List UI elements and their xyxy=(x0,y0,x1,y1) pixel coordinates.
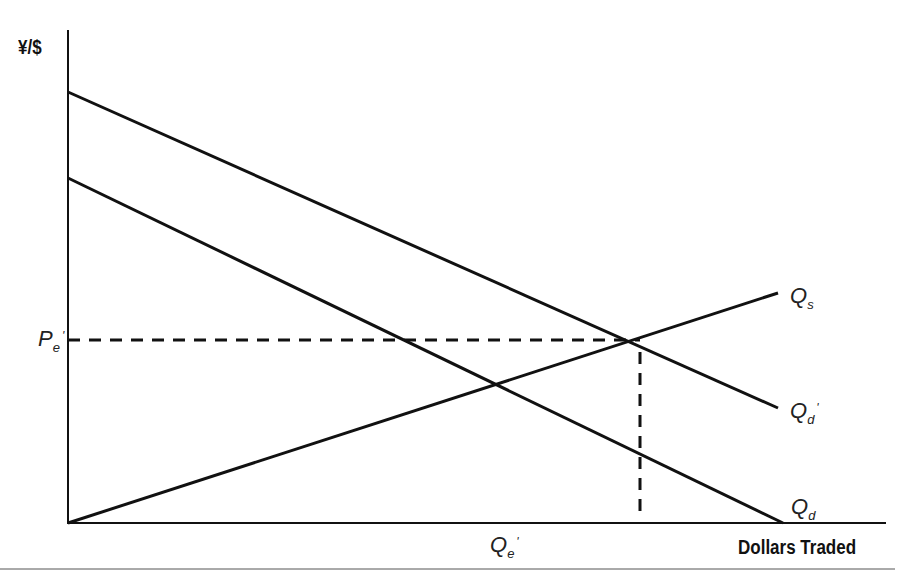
supply-demand-diagram xyxy=(0,0,912,582)
qd-prime-prime: ' xyxy=(816,401,818,415)
qs-main: Q xyxy=(790,283,807,308)
qs-label: Qs xyxy=(790,283,814,312)
qd-main: Q xyxy=(791,494,808,519)
qd-sub: d xyxy=(808,508,815,523)
qd-label: Qd xyxy=(791,494,815,523)
qe-sub: e xyxy=(507,546,514,561)
qe-prime: ' xyxy=(516,535,518,549)
y-axis-label: ¥/$ xyxy=(18,36,42,59)
qs-sub: s xyxy=(807,297,814,312)
pe-prime: ' xyxy=(62,329,64,343)
x-axis-label: Dollars Traded xyxy=(738,536,856,559)
pe-label: Pe' xyxy=(38,326,64,355)
supply-curve xyxy=(68,293,778,523)
pe-main: P xyxy=(38,326,53,351)
qe-label: Qe' xyxy=(490,532,519,561)
qd-prime-label: Qd' xyxy=(790,398,819,427)
pe-sub: e xyxy=(53,340,60,355)
qe-main: Q xyxy=(490,532,507,557)
qd-prime-sub: d xyxy=(807,412,814,427)
demand-curve-shifted xyxy=(68,92,778,408)
qd-prime-main: Q xyxy=(790,398,807,423)
demand-curve xyxy=(68,178,783,523)
